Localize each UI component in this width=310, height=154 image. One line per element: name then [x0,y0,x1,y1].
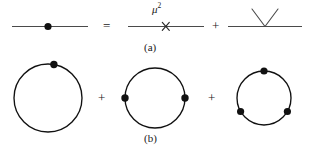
vertex-dot [284,108,291,115]
figure-vector-canvas [0,0,310,154]
plus-operator-row-b-second: + [208,91,215,104]
caption-panel-a: (a) [144,42,156,53]
vertex-dot [121,94,128,101]
plus-operator-row-b-first: + [98,91,105,104]
mu-squared-label: μ2 [152,4,161,15]
equals-operator: = [103,19,110,32]
vertex-dot [44,23,51,30]
caption-panel-b: (b) [144,133,157,144]
figure-background [0,0,310,154]
feynman-diagram-figure: = + μ2 (a) + + (b) [0,0,310,154]
plus-operator-row-a: + [212,19,219,32]
vertex-dot [181,94,188,101]
vertex-dot [260,67,267,74]
vertex-dot [237,108,244,115]
vertex-dot [50,61,57,68]
mu-exponent: 2 [158,1,162,10]
